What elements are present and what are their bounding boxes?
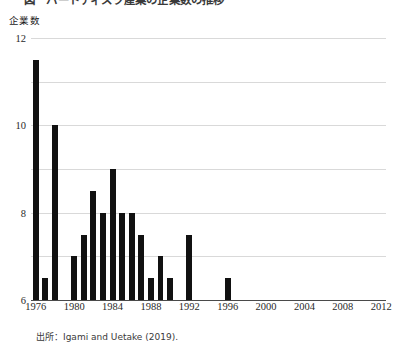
x-tick-label: 1988 bbox=[140, 301, 161, 312]
gridline: 6 bbox=[31, 169, 386, 170]
bar bbox=[225, 278, 231, 300]
bar bbox=[110, 169, 116, 300]
x-tick-label: 2004 bbox=[294, 301, 315, 312]
bar bbox=[100, 213, 106, 300]
figure-caption-text: 図 ハードディスク産業の企業数の推移 bbox=[24, 0, 225, 7]
bar bbox=[158, 256, 164, 300]
y-tick-label: 10 bbox=[16, 120, 27, 131]
bar bbox=[52, 125, 58, 300]
x-tick-label: 1996 bbox=[217, 301, 238, 312]
x-tick-label: 1976 bbox=[25, 301, 46, 312]
bar bbox=[42, 278, 48, 300]
bar bbox=[186, 235, 192, 301]
x-tick-label: 1992 bbox=[179, 301, 200, 312]
bar bbox=[138, 235, 144, 301]
gridline: 4 bbox=[31, 213, 386, 214]
bar bbox=[81, 235, 87, 301]
y-axis-title: 企業数 bbox=[9, 13, 40, 27]
figure-caption-cutoff: 図 ハードディスク産業の企業数の推移 bbox=[0, 0, 414, 9]
x-tick-label: 1980 bbox=[64, 301, 85, 312]
y-tick-label: 8 bbox=[21, 207, 26, 218]
gridline: 12 bbox=[31, 38, 386, 39]
bar bbox=[167, 278, 173, 300]
bar bbox=[33, 60, 39, 300]
x-tick-label: 2008 bbox=[332, 301, 353, 312]
bar bbox=[148, 278, 154, 300]
x-tick-label: 2012 bbox=[371, 301, 392, 312]
gridline: 8 bbox=[31, 125, 386, 126]
x-tick-label: 1984 bbox=[102, 301, 123, 312]
y-tick-label: 12 bbox=[16, 33, 27, 44]
bar bbox=[71, 256, 77, 300]
bar bbox=[129, 213, 135, 300]
chart-plot-area: 0246810121976198019841988199219962000200… bbox=[31, 38, 386, 300]
x-tick-label: 2000 bbox=[256, 301, 277, 312]
bar bbox=[119, 213, 125, 300]
bar bbox=[90, 191, 96, 300]
source-note: 出所：Igami and Uetake (2019). bbox=[36, 330, 178, 343]
gridline: 10 bbox=[31, 82, 386, 83]
